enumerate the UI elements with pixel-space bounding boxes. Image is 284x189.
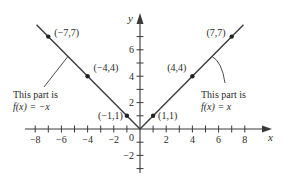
- point-label: (−7,7): [54, 27, 79, 39]
- y-axis-arrow-icon: [137, 13, 144, 24]
- x-tick-label: 6: [216, 134, 221, 145]
- x-tick-label: 2: [164, 134, 169, 145]
- x-tick-label: 8: [242, 134, 247, 145]
- x-tick-label: −6: [56, 134, 67, 145]
- point-label: (−4,4): [94, 62, 119, 74]
- y-tick-label: 4: [129, 71, 134, 82]
- y-tick-label: 6: [129, 44, 134, 55]
- y-axis-label: y: [127, 12, 133, 24]
- annotation-leader-left: [44, 56, 68, 87]
- annotation-left-line1: This part is: [13, 89, 58, 100]
- chart-canvas: xy −8−6−4−22468642−20 (−7,7)(−4,4)(−1,1)…: [0, 0, 284, 189]
- point-label: (−1,1): [98, 110, 123, 122]
- point-label: (4,4): [167, 62, 186, 74]
- absolute-value-graph: xy −8−6−4−22468642−20 (−7,7)(−4,4)(−1,1)…: [0, 0, 284, 189]
- annotation-left-line2: f(x) = −x: [13, 101, 50, 113]
- origin-label: 0: [129, 132, 134, 143]
- data-point: [190, 74, 194, 78]
- data-point: [85, 74, 89, 78]
- annotation-leader-right: [212, 56, 225, 83]
- data-point: [151, 114, 155, 118]
- x-axis-label: x: [267, 131, 273, 143]
- y-tick-label: 2: [129, 97, 134, 108]
- data-point: [230, 34, 234, 38]
- point-label: (7,7): [207, 27, 226, 39]
- x-tick-label: 4: [190, 134, 195, 145]
- x-tick-label: −8: [30, 134, 41, 145]
- x-tick-label: −4: [82, 134, 93, 145]
- point-label: (1,1): [158, 110, 177, 122]
- data-point: [46, 34, 50, 38]
- annotation-right-line1: This part is: [201, 89, 246, 100]
- annotation-right-line2: f(x) = x: [201, 101, 232, 113]
- y-tick-label: −2: [123, 150, 134, 161]
- x-tick-label: −2: [108, 134, 119, 145]
- data-point: [125, 114, 129, 118]
